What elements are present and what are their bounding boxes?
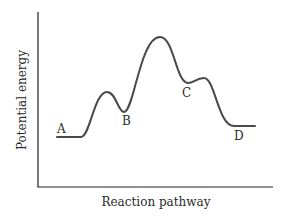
energy-curve [57,37,255,137]
x-axis-label: Reaction pathway [101,195,210,209]
point-label-c: C [182,86,191,100]
point-label-d: D [234,129,244,143]
y-axis-label: Potential energy [15,50,29,150]
energy-diagram: A B C D Potential energy Reaction pathwa… [0,0,291,219]
point-label-b: B [122,114,131,128]
point-label-a: A [56,122,66,136]
